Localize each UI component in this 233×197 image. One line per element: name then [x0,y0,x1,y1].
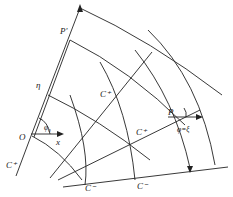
label-c-minus-left: C⁻ [85,183,97,193]
diagram-canvas: P' η O φ₀ x C⁺ C⁺ C⁺ C⁻ C⁻ P φ=ξ [0,0,233,197]
label-c-plus-right: C⁺ [136,127,148,137]
arc-outer [80,8,222,95]
c-minus-curve-mid [135,50,190,168]
label-c-plus-mid: C⁺ [100,89,112,99]
label-c-minus-right: C⁻ [137,181,149,191]
label-x-axis: x [55,137,60,147]
label-origin: O [19,132,26,142]
label-phi0: φ₀ [44,123,51,132]
label-p-prime: P' [59,26,68,36]
label-eta: η [36,80,41,90]
label-c-plus-left: C⁺ [6,160,18,170]
arrow-up-icon [77,4,83,12]
c-plus-line-through-P [58,110,200,180]
boundary-line [31,8,80,136]
c-plus-left-line [16,136,31,176]
label-phi-xi: φ=ξ [177,125,190,134]
phi-arc [184,108,186,117]
arc-3 [48,95,150,160]
c-minus-curve-left [70,95,86,185]
label-p: P [167,107,174,117]
characteristics-diagram: P' η O φ₀ x C⁺ C⁺ C⁺ C⁻ C⁻ P φ=ξ [0,0,233,197]
